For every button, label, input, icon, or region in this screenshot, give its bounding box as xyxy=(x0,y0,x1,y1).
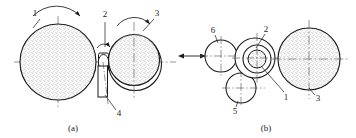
callout-2a: 2 xyxy=(103,9,108,19)
callout-5b: 5 xyxy=(233,106,238,116)
blade-4a[interactable] xyxy=(98,66,108,97)
callout-4a: 4 xyxy=(117,108,122,118)
callout-3a: 3 xyxy=(155,8,160,18)
rotation-arrow-3a xyxy=(117,17,150,26)
callout-3b: 3 xyxy=(316,93,321,103)
callout-6b: 6 xyxy=(211,25,216,35)
leader-4a xyxy=(105,95,116,110)
caption-a: (a) xyxy=(68,123,78,133)
leader-3a xyxy=(143,19,154,31)
roller-1a[interactable] xyxy=(20,24,96,100)
callout-1b: 1 xyxy=(284,92,289,102)
view-a: 1 2 3 4 (a) xyxy=(14,6,176,133)
rotation-arrow-1a xyxy=(33,6,80,16)
caption-b: (b) xyxy=(261,123,272,133)
view-b: 6 2 1 5 3 (b) xyxy=(200,20,350,133)
leader-1a xyxy=(33,19,40,28)
callout-1a: 1 xyxy=(33,8,38,18)
rotation-arrow-2a xyxy=(97,44,110,48)
callout-2b: 2 xyxy=(264,24,269,34)
figure-root: 1 2 3 4 (a) xyxy=(0,0,356,138)
roller-arrangement-diagram: 1 2 3 4 (a) xyxy=(0,0,356,138)
